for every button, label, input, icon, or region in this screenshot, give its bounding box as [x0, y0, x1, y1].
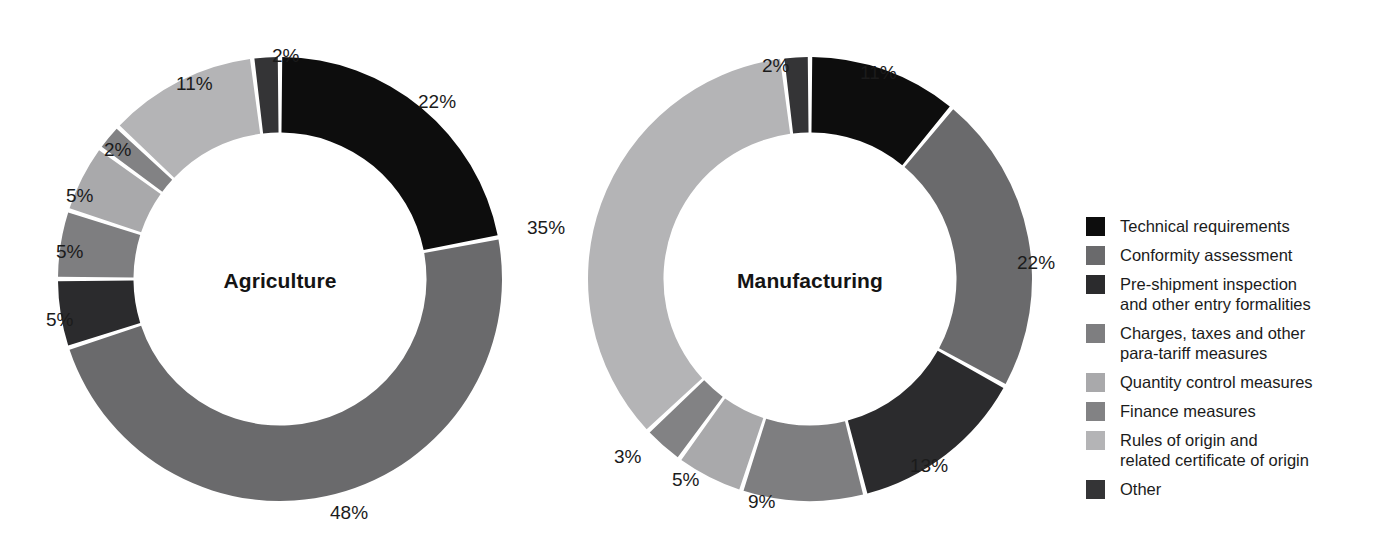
legend-swatch-icon	[1086, 217, 1105, 236]
legend-item[interactable]: Technical requirements	[1086, 216, 1386, 236]
donut-chart-figure: Agriculture Manufacturing 2%22%48%5%5%5%…	[0, 0, 1396, 556]
legend-swatch-icon	[1086, 402, 1105, 421]
legend-item-label: Charges, taxes and otherpara-tariff meas…	[1120, 323, 1305, 363]
legend-item-label: Finance measures	[1120, 401, 1256, 421]
percent-label-agriculture-2: 48%	[330, 503, 368, 522]
percent-label-manufacturing-4: 9%	[748, 492, 775, 511]
chart-panel-agriculture: Agriculture	[0, 0, 560, 556]
chart-legend: Technical requirementsConformity assessm…	[1086, 216, 1386, 508]
percent-label-manufacturing-6: 3%	[614, 447, 641, 466]
legend-item[interactable]: Pre-shipment inspectionand other entry f…	[1086, 274, 1386, 314]
percent-label-manufacturing-1: 11%	[860, 63, 897, 82]
legend-swatch-icon	[1086, 373, 1105, 392]
manufacturing-center-title: Manufacturing	[520, 269, 1100, 293]
percent-label-agriculture-7: 11%	[176, 74, 213, 93]
legend-item[interactable]: Rules of origin andrelated certificate o…	[1086, 430, 1386, 470]
donut-slice	[588, 59, 790, 429]
legend-item-label: Technical requirements	[1120, 216, 1290, 236]
legend-swatch-icon	[1086, 480, 1105, 499]
percent-label-manufacturing-2: 22%	[1017, 253, 1055, 272]
agriculture-center-title: Agriculture	[0, 269, 560, 293]
percent-label-agriculture-0: 2%	[272, 46, 299, 65]
percent-label-manufacturing-5: 5%	[672, 470, 699, 489]
percent-label-manufacturing-0: 2%	[762, 56, 789, 75]
donut-slice	[744, 419, 864, 501]
donut-slice	[905, 109, 1032, 384]
legend-item[interactable]: Charges, taxes and otherpara-tariff meas…	[1086, 323, 1386, 363]
legend-item-label: Quantity control measures	[1120, 372, 1313, 392]
legend-item-label: Pre-shipment inspectionand other entry f…	[1120, 274, 1311, 314]
legend-swatch-icon	[1086, 431, 1105, 450]
legend-item[interactable]: Finance measures	[1086, 401, 1386, 421]
donut-slice	[281, 57, 497, 250]
percent-label-agriculture-1: 22%	[418, 92, 456, 111]
legend-swatch-icon	[1086, 246, 1105, 265]
chart-panel-manufacturing: Manufacturing	[520, 0, 1100, 556]
percent-label-agriculture-3: 5%	[46, 310, 73, 329]
percent-label-agriculture-4: 5%	[56, 242, 83, 261]
legend-item-label: Rules of origin andrelated certificate o…	[1120, 430, 1309, 470]
legend-swatch-icon	[1086, 324, 1105, 343]
legend-item[interactable]: Conformity assessment	[1086, 245, 1386, 265]
percent-label-manufacturing-7: 35%	[527, 218, 565, 237]
legend-item[interactable]: Quantity control measures	[1086, 372, 1386, 392]
percent-label-manufacturing-3: 13%	[910, 456, 948, 475]
percent-label-agriculture-6: 2%	[104, 140, 131, 159]
legend-item[interactable]: Other	[1086, 479, 1386, 499]
percent-label-agriculture-5: 5%	[66, 186, 93, 205]
legend-item-label: Other	[1120, 479, 1161, 499]
legend-item-label: Conformity assessment	[1120, 245, 1292, 265]
legend-swatch-icon	[1086, 275, 1105, 294]
